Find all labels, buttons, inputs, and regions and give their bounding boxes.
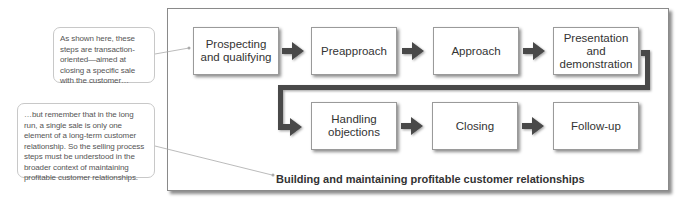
- leader-dot: [188, 47, 191, 50]
- elbow-connector-icon: [278, 50, 650, 136]
- note-text: …but remember that in the long run, a si…: [24, 110, 144, 182]
- leader-line-top: [155, 48, 189, 54]
- right-arrow-icon: [523, 42, 545, 60]
- note-text: As shown here, these steps are transacti…: [60, 34, 135, 85]
- right-arrow-icon: [402, 42, 424, 60]
- right-arrow-icon: [282, 42, 304, 60]
- annotation-note-relationship: …but remember that in the long run, a si…: [17, 103, 155, 178]
- right-arrow-icon: [401, 117, 423, 135]
- relationship-caption: Building and maintaining profitable cust…: [276, 173, 585, 185]
- leader-dot: [272, 174, 275, 177]
- annotation-note-transaction: As shown here, these steps are transacti…: [53, 27, 155, 83]
- right-arrow-icon: [522, 117, 544, 135]
- leader-line-bottom: [155, 146, 272, 175]
